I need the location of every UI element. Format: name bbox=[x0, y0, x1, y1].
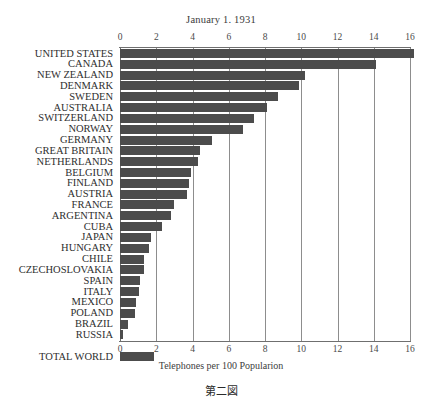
bar bbox=[120, 298, 136, 307]
bar-row: NETHERLANDS bbox=[120, 156, 410, 167]
bar-row: NORWAY bbox=[120, 124, 410, 135]
x-axis-label: Telephones per 100 Popularion bbox=[0, 360, 442, 371]
x-tick-label-top-4: 4 bbox=[190, 32, 195, 42]
bar bbox=[120, 103, 267, 112]
gridline-16 bbox=[410, 48, 411, 341]
x-tick-label-top-2: 2 bbox=[154, 32, 159, 42]
bar bbox=[120, 114, 254, 123]
plot-area: UNITED STATESCANADANEW ZEALANDDENMARKSWE… bbox=[120, 48, 410, 341]
bar bbox=[120, 81, 299, 90]
figure-telephones-per-100-population: January 1. 1931 0246810121416 0246810121… bbox=[0, 0, 442, 408]
x-tick-label-top-16: 16 bbox=[405, 32, 415, 42]
bar-row: POLAND bbox=[120, 308, 410, 319]
bar bbox=[120, 255, 144, 264]
bar bbox=[120, 287, 139, 296]
bar bbox=[120, 309, 135, 318]
chart-title: January 1. 1931 bbox=[0, 14, 442, 25]
x-tick-label-top-0: 0 bbox=[118, 32, 123, 42]
x-tick-label-top-12: 12 bbox=[333, 32, 343, 42]
bar-row: GREAT BRITAIN bbox=[120, 145, 410, 156]
bar-row: SWITZERLAND bbox=[120, 113, 410, 124]
bar-row: SPAIN bbox=[120, 275, 410, 286]
bar bbox=[120, 233, 151, 242]
bar bbox=[120, 211, 171, 220]
bar bbox=[120, 222, 162, 231]
bar bbox=[120, 276, 140, 285]
x-tick-label-top-6: 6 bbox=[226, 32, 231, 42]
x-axis-ticks-top: 0246810121416 bbox=[120, 32, 410, 44]
x-tick-label-top-14: 14 bbox=[369, 32, 379, 42]
bar bbox=[120, 265, 144, 274]
bar-row: AUSTRIA bbox=[120, 189, 410, 200]
bar bbox=[120, 168, 191, 177]
bar bbox=[120, 330, 123, 339]
bar bbox=[120, 60, 376, 69]
bar-row: NEW ZEALAND bbox=[120, 70, 410, 81]
bar bbox=[120, 146, 200, 155]
bar-row: ARGENTINA bbox=[120, 210, 410, 221]
bar bbox=[120, 49, 414, 58]
bar-row: JAPAN bbox=[120, 232, 410, 243]
bar-row: DENMARK bbox=[120, 80, 410, 91]
bar-row: CUBA bbox=[120, 221, 410, 232]
bar bbox=[120, 179, 189, 188]
bar bbox=[120, 71, 305, 80]
bar-row: HUNGARY bbox=[120, 243, 410, 254]
bar-row: CZECHOSLOVAKIA bbox=[120, 264, 410, 275]
bar-row: CHILE bbox=[120, 254, 410, 265]
bar-row: AUSTRALIA bbox=[120, 102, 410, 113]
bar-row: FRANCE bbox=[120, 199, 410, 210]
bar bbox=[120, 244, 149, 253]
x-tick-label-top-8: 8 bbox=[263, 32, 268, 42]
bar bbox=[120, 190, 187, 199]
bar bbox=[120, 92, 278, 101]
bar bbox=[120, 320, 128, 329]
bar-row: MEXICO bbox=[120, 297, 410, 308]
bar-row: FINLAND bbox=[120, 178, 410, 189]
bar-row: GERMANY bbox=[120, 135, 410, 146]
bar-row: ITALY bbox=[120, 286, 410, 297]
bar bbox=[120, 157, 198, 166]
bar-row: SWEDEN bbox=[120, 91, 410, 102]
bar bbox=[120, 125, 243, 134]
figure-caption: 第二図 bbox=[0, 382, 442, 398]
bar-row: BRAZIL bbox=[120, 319, 410, 330]
bar-row: BELGIUM bbox=[120, 167, 410, 178]
bar bbox=[120, 200, 174, 209]
axis-bottom-rule bbox=[119, 341, 411, 342]
x-tick-label-top-10: 10 bbox=[297, 32, 307, 42]
bar-row: UNITED STATES bbox=[120, 48, 410, 59]
bar-row: CANADA bbox=[120, 59, 410, 70]
bar bbox=[120, 136, 212, 145]
bar-row: RUSSIA bbox=[120, 329, 410, 340]
category-label: RUSSIA bbox=[76, 329, 113, 340]
